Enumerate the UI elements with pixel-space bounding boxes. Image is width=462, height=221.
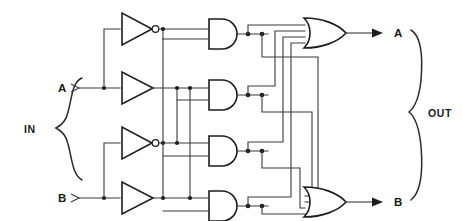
output-arrow-a [372,29,383,38]
route-and1-to-or-bottom [262,34,318,196]
input-pin-label-a: A [58,82,67,94]
junction-bus-not-a-top [161,27,165,31]
route-and2-to-or-top [248,31,305,95]
route-and2-to-or-bottom [262,95,312,202]
route-and1-to-or-top [248,25,305,34]
or-gate-bottom [304,187,346,217]
input-pin-arrow-b [71,194,79,202]
inverter-bubble-1 [152,26,159,33]
junction-bus-a-top [175,86,179,90]
output-brace [409,30,422,200]
wire-a-to-inverter-top [104,29,120,88]
and-gate-4 [209,191,237,221]
route-and3-to-or-bottom [262,151,305,208]
and-gate-3 [209,136,237,166]
inverter-a-top [122,13,159,45]
output-pin-label-b: B [394,196,403,208]
output-group-label: OUT [428,107,452,119]
output-pin-label-a: A [394,27,403,39]
route-and3-to-or-top [248,37,305,151]
input-group-label: IN [24,123,36,135]
junction-bus-b-low [188,196,192,200]
junction-bus-a-bottom [175,141,179,145]
junction-bus-b-mid [188,86,192,90]
route-and4-to-or-bottom [262,206,305,214]
and-gate-1 [209,19,237,49]
and-gate-2 [209,80,237,110]
junction-bus-b [161,196,165,200]
inverter-b-top [122,127,159,159]
buffer-b [122,182,153,214]
logic-circuit-svg: IN A B [0,0,462,221]
or-gate-top [304,18,346,48]
wire-b-to-inverter-top [104,143,120,198]
inverter-bubble-2 [152,140,159,147]
output-brace-group [409,30,422,200]
input-pin-label-b: B [58,192,67,204]
buffer-a [122,72,153,104]
output-arrow-b [372,198,383,207]
route-and4-to-or-top [248,43,305,206]
circuit-diagram-canvas: IN A B [0,0,462,221]
